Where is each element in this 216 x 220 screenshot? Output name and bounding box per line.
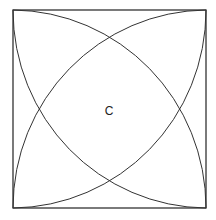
center-label: C — [105, 104, 114, 118]
geometry-diagram: C — [0, 0, 216, 220]
